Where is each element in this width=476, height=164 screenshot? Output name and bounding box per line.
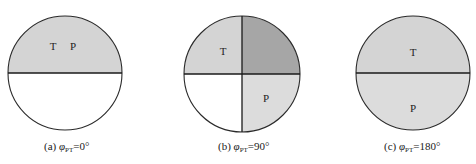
- panel-c-label-P: P: [410, 102, 416, 114]
- phase-diagram-figure: T P (a) φPT=0° T P (b) φPT=90° T P (c) φ…: [0, 0, 476, 164]
- panel-b-caption-prefix: (b): [218, 140, 234, 153]
- panel-c-caption-prefix: (c): [384, 140, 399, 153]
- panel-b-label-P: P: [263, 92, 269, 104]
- panel-c-caption: (c) φPT=180°: [384, 140, 440, 154]
- panel-a-caption-value: =0°: [73, 140, 89, 152]
- panel-c-top-half: [356, 16, 470, 73]
- panel-b-quadrant-top-left: [184, 16, 242, 74]
- panel-b-quadrant-top-right: [242, 16, 300, 74]
- panel-b-label-T: T: [220, 45, 227, 57]
- panel-a-caption: (a) φPT=0°: [44, 140, 89, 154]
- panel-b-caption-value: =90°: [248, 140, 270, 152]
- panel-a-caption-prefix: (a): [44, 140, 59, 153]
- panel-a-label-P: P: [70, 40, 76, 52]
- panel-c-caption-value: =180°: [413, 140, 440, 152]
- panel-a-bottom-half: [8, 73, 122, 130]
- panel-a: T P (a) φPT=0°: [8, 16, 122, 154]
- panel-b-caption: (b) φPT=90°: [218, 140, 269, 154]
- panel-b-quadrant-bottom-right: [242, 74, 300, 132]
- panel-c: T P (c) φPT=180°: [356, 16, 470, 154]
- panel-b: T P (b) φPT=90°: [184, 16, 300, 154]
- panel-a-label-T: T: [50, 40, 57, 52]
- panel-c-label-T: T: [410, 46, 417, 58]
- panel-b-quadrant-bottom-left: [184, 74, 242, 132]
- panel-a-top-half: [8, 16, 122, 73]
